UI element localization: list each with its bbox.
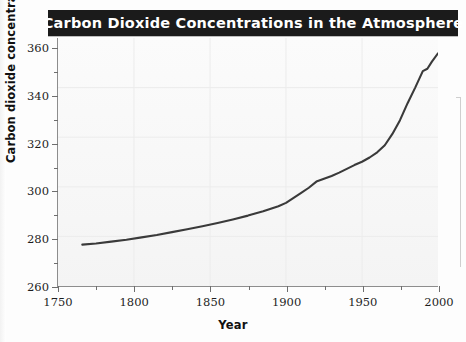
- x-label-1950: 1950: [348, 295, 377, 309]
- x-label-1850: 1850: [196, 295, 225, 309]
- y-tick-minor-330: [54, 120, 58, 121]
- x-label-1900: 1900: [272, 295, 301, 309]
- y-tick-minor-310: [54, 168, 58, 169]
- x-tick-1950: [363, 286, 364, 292]
- x-label-2000: 2000: [424, 295, 453, 309]
- x-tick-minor-1925: [325, 286, 326, 290]
- x-tick-minor-1775: [96, 286, 97, 290]
- y-label-280: 280: [27, 232, 49, 246]
- scan-artifact-tick: [456, 97, 461, 98]
- y-label-260: 260: [27, 280, 49, 294]
- scan-artifact-line: [460, 97, 461, 267]
- y-tick-300: [52, 191, 58, 192]
- y-label-300: 300: [27, 184, 49, 198]
- y-tick-360: [52, 48, 58, 49]
- y-label-340: 340: [27, 89, 49, 103]
- x-axis-title: Year: [0, 318, 466, 332]
- x-tick-1900: [287, 286, 288, 292]
- y-tick-320: [52, 144, 58, 145]
- y-label-320: 320: [27, 137, 49, 151]
- x-tick-minor-1975: [401, 286, 402, 290]
- y-tick-minor-290: [54, 215, 58, 216]
- y-tick-340: [52, 96, 58, 97]
- x-tick-1750: [58, 286, 59, 292]
- chart-title-bar: Carbon Dioxide Concentrations in the Atm…: [48, 10, 458, 36]
- x-tick-minor-1875: [249, 286, 250, 290]
- y-label-360: 360: [27, 41, 49, 55]
- x-tick-1800: [134, 286, 135, 292]
- x-label-1800: 1800: [120, 295, 149, 309]
- x-label-1750: 1750: [43, 295, 72, 309]
- plot-area: 260 280 300 320 340 360 1750 1800 1850 1…: [57, 38, 438, 287]
- co2-chart-figure: Carbon Dioxide Concentrations in the Atm…: [0, 0, 466, 342]
- y-axis-title: Carbon dioxide concentrations (ppm): [4, 0, 18, 163]
- x-tick-1850: [210, 286, 211, 292]
- co2-data-line: [58, 38, 438, 286]
- chart-title: Carbon Dioxide Concentrations in the Atm…: [43, 15, 464, 31]
- y-tick-280: [52, 239, 58, 240]
- x-tick-minor-1825: [172, 286, 173, 290]
- y-tick-minor-270: [54, 263, 58, 264]
- x-tick-2000: [439, 286, 440, 292]
- y-tick-minor-350: [54, 72, 58, 73]
